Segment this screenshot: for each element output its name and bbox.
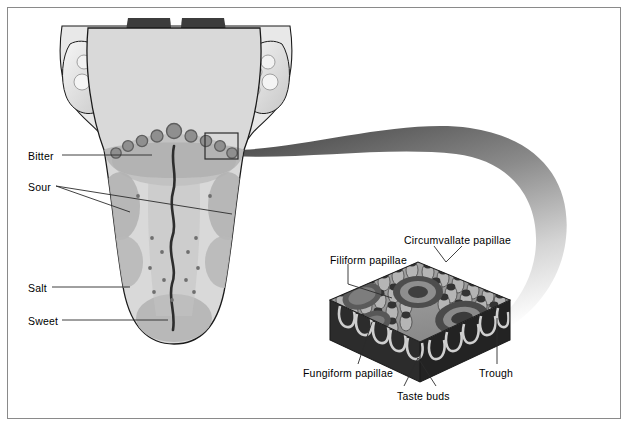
figure-border (7, 7, 621, 419)
figure-root: Bitter Sour Salt Sweet Circumvallate pap… (0, 0, 630, 428)
